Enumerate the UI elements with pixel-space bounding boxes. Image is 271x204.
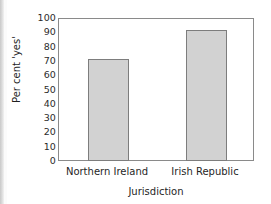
y-axis-title: Per cent 'yes': [11, 15, 22, 125]
y-axis-tick-label: 0: [32, 156, 56, 166]
y-axis-tick-label: 30: [32, 113, 56, 123]
x-axis-tick-label: Irish Republic: [145, 166, 265, 177]
bar: [88, 59, 129, 161]
bar-chart-figure: Per cent 'yes' 1009080706050403020100 No…: [0, 0, 271, 204]
y-axis-tick-label: 70: [32, 56, 56, 66]
y-axis-tick-label: 10: [32, 142, 56, 152]
y-axis-tick-label: 60: [32, 70, 56, 80]
y-axis-tick-label: 20: [32, 127, 56, 137]
plot-area: [58, 18, 254, 161]
page-edge-shadow-inner: [4, 0, 7, 204]
y-axis-tick-label: 100: [32, 13, 56, 23]
y-axis-tick-label: 40: [32, 99, 56, 109]
y-axis-tick-label: 90: [32, 27, 56, 37]
y-axis-tick-label: 80: [32, 42, 56, 52]
bar: [186, 30, 227, 161]
y-axis-tick-label: 50: [32, 85, 56, 95]
x-axis-title: Jurisdiction: [58, 186, 254, 197]
